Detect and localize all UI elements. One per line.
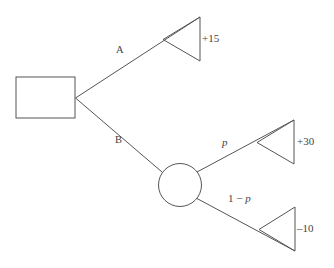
branch-1-minus-p-line — [197, 199, 295, 252]
decision-node-square — [16, 77, 75, 118]
probability-symbol: p — [245, 192, 251, 204]
branch-label-p: p — [222, 137, 228, 148]
payoff-label-15: +15 — [202, 33, 219, 44]
payoff-label-30: +30 — [297, 136, 314, 147]
branch-label-a: A — [116, 44, 124, 55]
terminal-triangle-30 — [257, 120, 294, 164]
payoff-label-minus-10: –10 — [297, 223, 314, 234]
branch-p-line — [197, 120, 294, 172]
branch-a-line — [76, 17, 201, 98]
tree-graphics — [0, 0, 334, 268]
chance-node-circle — [159, 164, 202, 207]
one-minus-prefix: 1 − — [228, 192, 245, 204]
terminal-triangle-15 — [163, 17, 200, 61]
branch-label-1-minus-p: 1 − p — [228, 193, 251, 204]
terminal-triangle-minus-10 — [259, 207, 295, 251]
decision-tree-diagram: A B p 1 − p +15 +30 –10 — [0, 0, 334, 268]
branch-label-b: B — [115, 134, 122, 145]
